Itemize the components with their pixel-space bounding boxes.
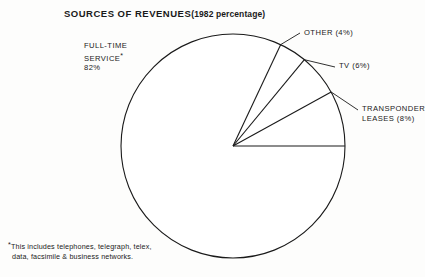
slice-label-transponder-leases: TRANSPONDER LEASES (8%)	[362, 104, 425, 123]
pie-chart	[0, 0, 425, 277]
footnote-line1: This includes telephones, telegraph, tel…	[11, 242, 152, 251]
chart-canvas: SOURCES OF REVENUES(1982 percentage) FUL…	[0, 0, 425, 277]
leader-line-other	[281, 33, 300, 45]
slice-label-full-time-service: FULL-TIME SERVICE* 82%	[84, 41, 127, 72]
slice-label-other: OTHER (4%)	[304, 28, 353, 38]
slice-label-full-time-line2: SERVICE	[84, 53, 120, 62]
slice-label-tv: TV (6%)	[339, 61, 370, 71]
slice-value-full-time: 82%	[84, 63, 101, 72]
slice-label-transponder-line1: TRANSPONDER	[362, 104, 425, 113]
slice-label-transponder-line2: LEASES (8%)	[362, 114, 415, 123]
slice-label-full-time-line1: FULL-TIME	[84, 41, 127, 50]
chart-footnote: *This includes telephones, telegraph, te…	[8, 240, 152, 261]
footnote-line2: data, facsimile & business networks.	[8, 252, 152, 261]
footnote-marker-icon: *	[120, 52, 123, 59]
